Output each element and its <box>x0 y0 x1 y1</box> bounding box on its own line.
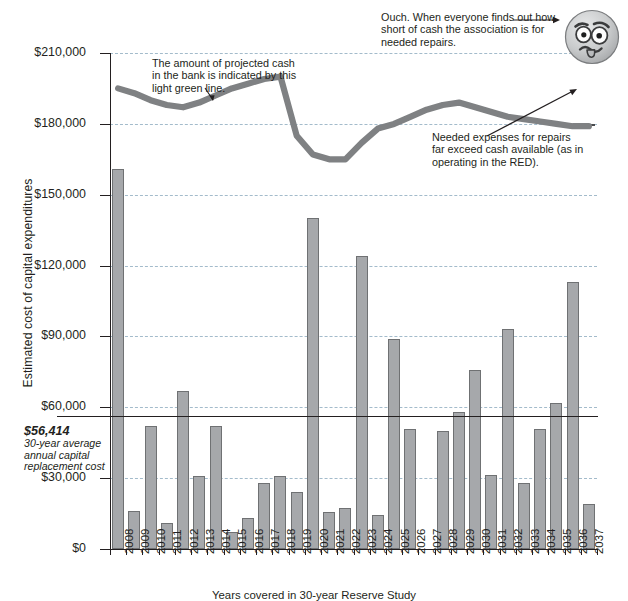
worried-face-icon <box>563 8 621 66</box>
x-axis-label-2014: 2014 <box>220 494 232 554</box>
y-axis-tick <box>100 53 111 54</box>
y-axis-tick <box>100 266 111 267</box>
average-reference-line <box>57 416 598 417</box>
x-axis-label-2031: 2031 <box>496 494 508 554</box>
x-axis-label-2034: 2034 <box>545 494 557 554</box>
x-axis-label-2016: 2016 <box>253 494 265 554</box>
x-axis-label-2022: 2022 <box>350 494 362 554</box>
x-axis-label-2009: 2009 <box>139 494 151 554</box>
average-amount: $56,414 <box>24 424 122 438</box>
y-axis-tick <box>100 336 111 337</box>
average-callout: $56,414 30-year average annual capital r… <box>24 424 122 473</box>
x-axis-label-2028: 2028 <box>447 494 459 554</box>
x-axis-label-2029: 2029 <box>464 494 476 554</box>
y-axis-tick-label: $120,000 <box>14 258 86 272</box>
y-axis-tick-label: $180,000 <box>14 116 86 130</box>
x-axis-caption: Years covered in 30-year Reserve Study <box>0 589 628 601</box>
y-axis-tick <box>100 195 111 196</box>
x-axis-label-2030: 2030 <box>480 494 492 554</box>
x-axis-label-2010: 2010 <box>155 494 167 554</box>
x-axis-label-2033: 2033 <box>529 494 541 554</box>
x-axis-label-2026: 2026 <box>415 494 427 554</box>
annotation-ouch: Ouch. When everyone finds out how short … <box>381 11 556 48</box>
y-axis-tick-label: $90,000 <box>14 328 86 342</box>
y-axis-tick <box>100 407 111 408</box>
x-axis-label-2017: 2017 <box>269 494 281 554</box>
x-axis-label-2032: 2032 <box>512 494 524 554</box>
y-axis-tick <box>100 478 111 479</box>
bar-series <box>110 53 597 549</box>
x-axis-label-2018: 2018 <box>285 494 297 554</box>
annotation-red: Needed expenses for repairs far exceed c… <box>432 131 584 168</box>
x-axis-label-2020: 2020 <box>318 494 330 554</box>
bar-2008 <box>112 169 124 549</box>
x-axis-label-2024: 2024 <box>382 494 394 554</box>
y-axis-tick-label: $60,000 <box>14 399 86 413</box>
y-axis-tick-label: $150,000 <box>14 187 86 201</box>
x-axis-label-2037: 2037 <box>593 494 605 554</box>
y-axis-tick-label: $0 <box>14 541 86 555</box>
x-axis-label-2036: 2036 <box>577 494 589 554</box>
plot-area <box>110 53 597 549</box>
average-desc-line-3: replacement cost <box>24 461 122 473</box>
bar-2037-shortfall <box>583 124 595 126</box>
x-axis-label-2023: 2023 <box>366 494 378 554</box>
x-axis-tick <box>110 549 111 555</box>
x-axis-label-2008: 2008 <box>123 494 135 554</box>
x-axis-label-2027: 2027 <box>431 494 443 554</box>
average-desc-line-1: 30-year average <box>24 438 122 450</box>
x-axis-label-2011: 2011 <box>171 494 183 554</box>
chart-canvas: Estimated cost of capital expenditures $… <box>0 0 628 601</box>
x-axis-label-2012: 2012 <box>188 494 200 554</box>
x-axis-label-2035: 2035 <box>561 494 573 554</box>
y-axis-tick <box>100 124 111 125</box>
x-axis-label-2025: 2025 <box>399 494 411 554</box>
y-axis-tick-label: $210,000 <box>14 45 86 59</box>
x-axis-label-2013: 2013 <box>204 494 216 554</box>
x-axis-label-2019: 2019 <box>301 494 313 554</box>
x-axis-label-2021: 2021 <box>334 494 346 554</box>
x-axis-label-2015: 2015 <box>236 494 248 554</box>
annotation-green-line: The amount of projected cash in the bank… <box>152 57 302 94</box>
y-axis-tick-labels: $210,000$180,000$150,000$120,000$90,000$… <box>10 0 86 601</box>
